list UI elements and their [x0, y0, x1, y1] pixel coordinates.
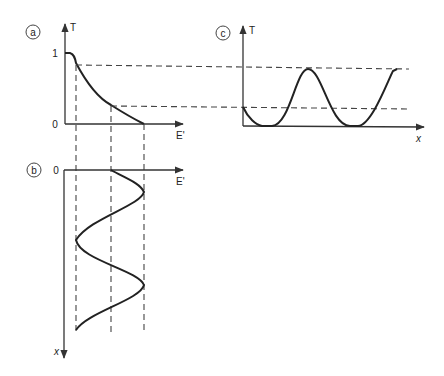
panel-c-label: c — [221, 28, 226, 39]
panel-a-y-label: T — [70, 22, 76, 33]
panel-b-label: b — [31, 165, 37, 176]
panel-b: b 0 E' x — [27, 163, 185, 358]
panel-b-y-label: x — [53, 346, 60, 357]
panel-c-curve — [243, 69, 397, 126]
lower-projection-line — [111, 106, 409, 109]
panel-b-curve — [76, 170, 144, 330]
panel-a-tick-0: 0 — [52, 119, 58, 130]
panel-b-x-label: E' — [176, 176, 185, 187]
panel-a-x-label: E' — [176, 130, 185, 141]
panel-a-curve — [65, 53, 144, 124]
panel-a: a T E' 1 0 — [26, 22, 185, 141]
panel-b-tick-0: 0 — [53, 165, 59, 176]
panel-c-y-label: T — [249, 25, 255, 36]
panel-c-x-label: x — [415, 133, 422, 144]
transmission-diagram: a T E' 1 0 b 0 E' x c T x — [0, 0, 444, 376]
panel-c: c T x — [216, 25, 424, 144]
panel-a-label: a — [30, 27, 36, 38]
panel-a-tick-1: 1 — [52, 48, 58, 59]
